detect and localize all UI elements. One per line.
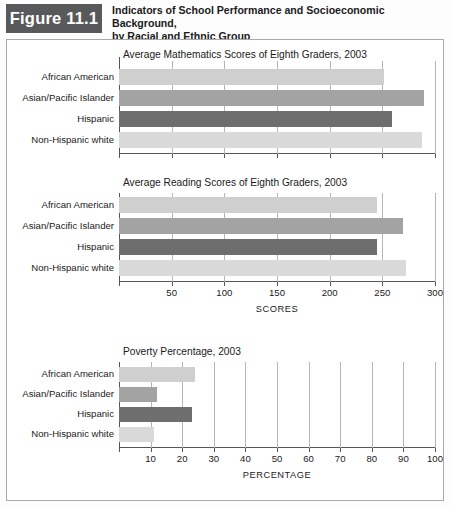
category-label-reading-2: Hispanic xyxy=(77,241,114,252)
figure-header: Figure 11.1 Indicators of School Perform… xyxy=(6,4,446,40)
tickmark-mathematics-100 xyxy=(224,154,225,158)
x-tick-label-reading-250: 250 xyxy=(362,287,402,298)
bar-row xyxy=(119,427,435,442)
category-label-reading-1: Asian/Pacific Islander xyxy=(22,220,114,231)
chart-poverty-percentage: Poverty Percentage, 2003 African America… xyxy=(7,340,443,500)
plot-area-reading: African AmericanAsian/Pacific IslanderHi… xyxy=(119,193,435,282)
bar-row xyxy=(119,407,435,422)
tickmark-poverty-50 xyxy=(277,448,278,452)
category-label-poverty-3: Non-Hispanic white xyxy=(31,428,114,439)
bar-mathematics-3 xyxy=(119,132,422,148)
bar-mathematics-0 xyxy=(119,69,384,85)
x-tick-label-reading-200: 200 xyxy=(310,287,350,298)
bar-row xyxy=(119,69,435,85)
tickmark-poverty-20 xyxy=(182,448,183,452)
tickmark-poverty-30 xyxy=(214,448,215,452)
figure-number-badge: Figure 11.1 xyxy=(6,4,102,33)
category-label-poverty-1: Asian/Pacific Islander xyxy=(22,388,114,399)
bar-poverty-3 xyxy=(119,427,154,442)
chart-title-mathematics: Average Mathematics Scores of Eighth Gra… xyxy=(123,49,367,60)
chart-title-reading: Average Reading Scores of Eighth Graders… xyxy=(123,177,347,188)
bar-poverty-0 xyxy=(119,367,195,382)
bar-poverty-2 xyxy=(119,407,192,422)
category-label-poverty-2: Hispanic xyxy=(77,408,114,419)
tickmark-reading-50 xyxy=(172,282,173,286)
tickmark-mathematics-150 xyxy=(277,154,278,158)
bar-reading-0 xyxy=(119,197,377,213)
bar-mathematics-1 xyxy=(119,90,424,106)
x-axis-label-poverty: PERCENTAGE xyxy=(119,470,435,480)
tickmark-mathematics-50 xyxy=(172,154,173,158)
category-label-mathematics-1: Asian/Pacific Islander xyxy=(22,92,114,103)
x-tick-label-reading-100: 100 xyxy=(204,287,244,298)
bar-row xyxy=(119,218,435,234)
bar-reading-2 xyxy=(119,239,377,255)
category-label-mathematics-2: Hispanic xyxy=(77,113,114,124)
bar-row xyxy=(119,90,435,106)
chart-mathematics-scores: Average Mathematics Scores of Eighth Gra… xyxy=(7,40,443,168)
x-tick-label-poverty-100: 100 xyxy=(415,453,452,464)
tickmark-reading-0 xyxy=(119,282,120,286)
tickmark-poverty-100 xyxy=(435,448,436,452)
bar-row xyxy=(119,387,435,402)
tickmark-poverty-0 xyxy=(119,448,120,452)
tickmark-reading-100 xyxy=(224,282,225,286)
tickmark-mathematics-300 xyxy=(435,154,436,158)
chart-reading-scores: Average Reading Scores of Eighth Graders… xyxy=(7,171,443,331)
bar-row xyxy=(119,111,435,127)
category-label-reading-0: African American xyxy=(41,199,114,210)
bar-reading-1 xyxy=(119,218,403,234)
bar-reading-3 xyxy=(119,260,406,276)
tickmark-poverty-10 xyxy=(151,448,152,452)
plot-area-poverty: African AmericanAsian/Pacific IslanderHi… xyxy=(119,362,435,448)
tickmark-mathematics-0 xyxy=(119,154,120,158)
category-label-reading-3: Non-Hispanic white xyxy=(31,262,114,273)
tickmark-reading-200 xyxy=(330,282,331,286)
plot-area-mathematics: African AmericanAsian/Pacific IslanderHi… xyxy=(119,65,435,154)
category-label-mathematics-3: Non-Hispanic white xyxy=(31,134,114,145)
tickmark-mathematics-250 xyxy=(382,154,383,158)
gridline-mathematics-300 xyxy=(435,61,436,154)
category-label-mathematics-0: African American xyxy=(41,71,114,82)
x-tick-label-reading-150: 150 xyxy=(257,287,297,298)
tickmark-reading-250 xyxy=(382,282,383,286)
tickmark-poverty-80 xyxy=(372,448,373,452)
tickmark-reading-150 xyxy=(277,282,278,286)
gridline-poverty-100 xyxy=(435,362,436,448)
bar-row xyxy=(119,197,435,213)
tickmark-mathematics-200 xyxy=(330,154,331,158)
tickmark-poverty-60 xyxy=(309,448,310,452)
tickmark-reading-300 xyxy=(435,282,436,286)
tickmark-poverty-90 xyxy=(403,448,404,452)
bar-row xyxy=(119,367,435,382)
bar-row xyxy=(119,260,435,276)
page-title-line-1: Indicators of School Performance and Soc… xyxy=(112,4,442,30)
bar-row xyxy=(119,132,435,148)
chart-title-poverty: Poverty Percentage, 2003 xyxy=(123,346,241,357)
charts-frame: Average Mathematics Scores of Eighth Gra… xyxy=(6,39,444,501)
x-tick-label-reading-300: 300 xyxy=(415,287,452,298)
tickmark-poverty-40 xyxy=(245,448,246,452)
tickmark-poverty-70 xyxy=(340,448,341,452)
bar-mathematics-2 xyxy=(119,111,392,127)
bar-poverty-1 xyxy=(119,387,157,402)
figure-number-label: Figure 11.1 xyxy=(6,4,102,33)
page-title: Indicators of School Performance and Soc… xyxy=(112,4,442,44)
x-axis-label-reading: SCORES xyxy=(119,304,435,314)
bar-row xyxy=(119,239,435,255)
category-label-poverty-0: African American xyxy=(41,368,114,379)
figure-page: Figure 11.1 Indicators of School Perform… xyxy=(0,0,452,508)
x-tick-label-reading-50: 50 xyxy=(152,287,192,298)
gridline-reading-300 xyxy=(435,193,436,282)
